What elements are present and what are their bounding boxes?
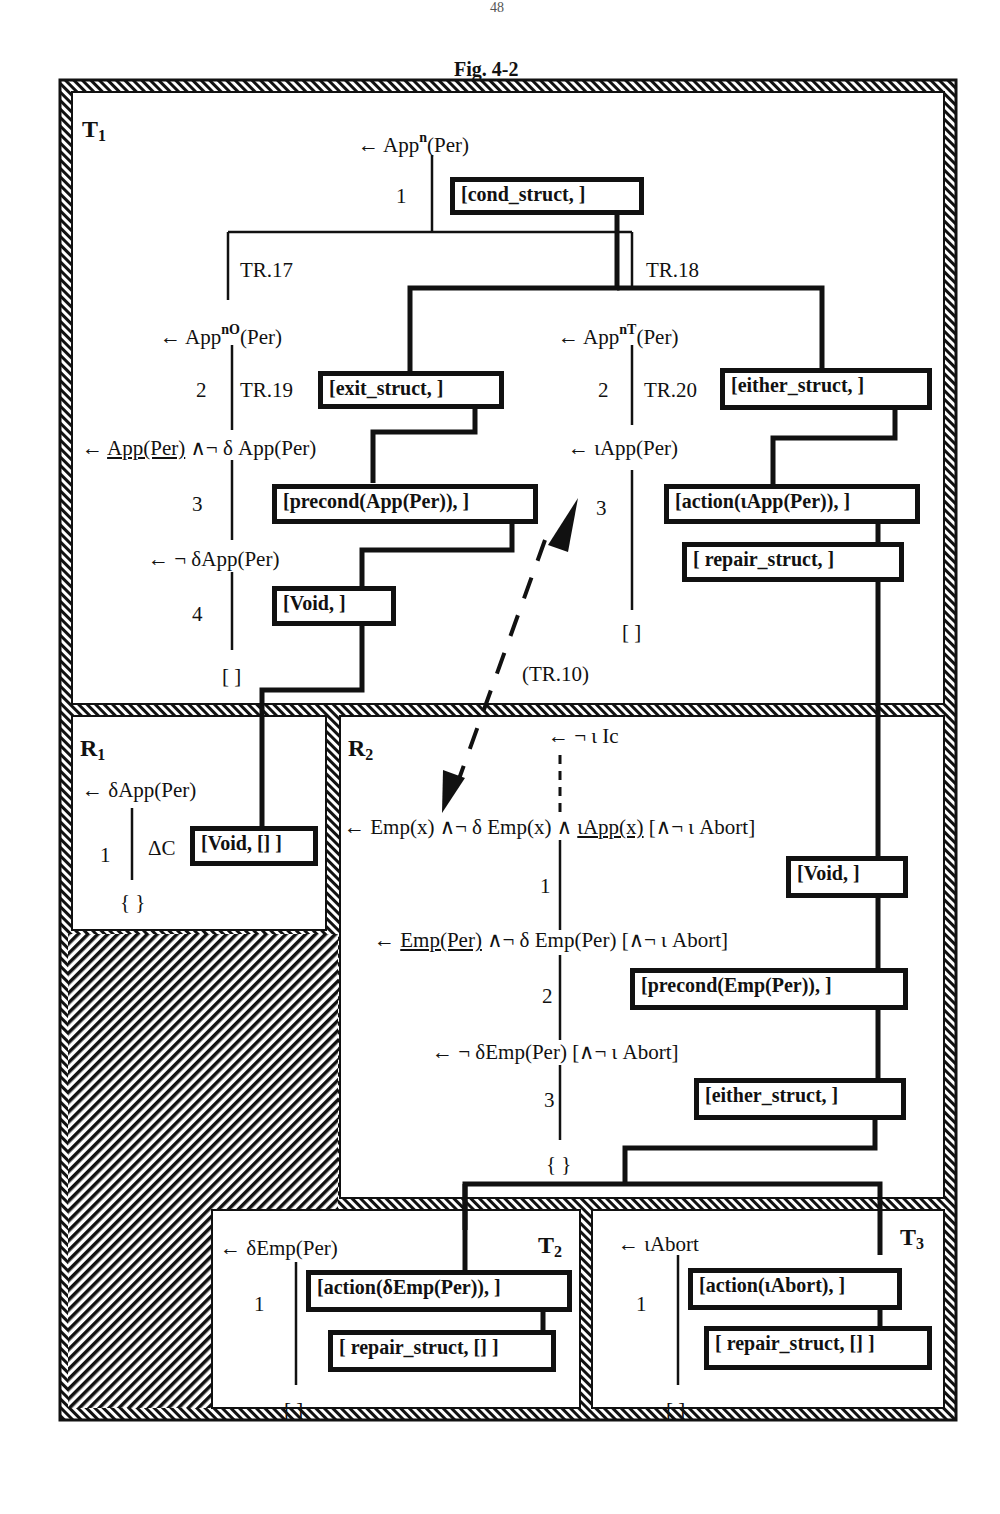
tr10-label: (TR.10) — [522, 662, 589, 686]
t3-step-1: 1 — [636, 1292, 647, 1316]
t1-left-end: [ ] — [222, 664, 241, 688]
figure-title: Fig. 4-2 — [454, 58, 518, 81]
r2-step-2: 2 — [542, 984, 553, 1008]
precond-app-box: [precond(App(Per)), ] — [272, 484, 538, 524]
void-box-r1: [Void, [] ] — [190, 826, 318, 866]
r2-goal-3: ← ¬ δEmp(Per) [∧¬ ι Abort] — [432, 1040, 678, 1064]
region-label-r1: R1 — [80, 735, 105, 768]
r2-end: { } — [546, 1152, 571, 1176]
t3-end: [ ] — [666, 1398, 685, 1422]
t2-step-1: 1 — [254, 1292, 265, 1316]
t1-left-step-2: 2 — [196, 378, 207, 402]
r1-goal: ← δApp(Per) — [82, 778, 196, 802]
either-struct-box-t1: [either_struct, ] — [720, 368, 932, 410]
r1-end: { } — [120, 890, 145, 914]
void-box-t1: [Void, ] — [272, 586, 396, 626]
t1-right-step-2: 2 — [598, 378, 609, 402]
r2-step-3: 3 — [544, 1088, 555, 1112]
tr19-label: TR.19 — [240, 378, 293, 402]
t3-goal: ← ιAbort — [618, 1232, 699, 1256]
r2-goal-1: ← Emp(x) ∧¬ δ Emp(x) ∧ ιApp(x) [∧¬ ι Abo… — [344, 815, 755, 839]
action-iapp-box: [action(ιApp(Per)), ] — [664, 484, 920, 524]
page-number: 48 — [490, 0, 504, 16]
t1-right-step-3: 3 — [596, 496, 607, 520]
t1-left-goal-3: ← ¬ δApp(Per) — [148, 547, 279, 571]
r2-top-goal: ← ¬ ι Ic — [548, 724, 619, 748]
tr20-label: TR.20 — [644, 378, 697, 402]
t1-step-1: 1 — [396, 184, 407, 208]
action-demp-box: [action(δEmp(Per)), ] — [306, 1270, 572, 1312]
action-iabort-box: [action(ιAbort), ] — [688, 1268, 902, 1310]
t1-left-step-4: 4 — [192, 602, 203, 626]
r1-delta-c: ΔC — [148, 836, 176, 860]
exit-struct-box: [exit_struct, ] — [318, 371, 504, 409]
region-label-r2: R2 — [348, 735, 373, 768]
t1-left-goal-2: ← App(Per) ∧¬ δ App(Per) — [82, 436, 316, 460]
r2-step-1: 1 — [540, 874, 551, 898]
t1-left-goal: ← AppnO(Per) — [160, 318, 282, 349]
repair-struct-box-t3: [ repair_struct, [] ] — [704, 1326, 932, 1370]
precond-emp-box: [precond(Emp(Per)), ] — [630, 968, 908, 1010]
region-label-t3: T3 — [900, 1224, 924, 1257]
tr17-label: TR.17 — [240, 258, 293, 282]
repair-struct-box-t2: [ repair_struct, [] ] — [328, 1330, 556, 1372]
r2-goal-2: ← Emp(Per) ∧¬ δ Emp(Per) [∧¬ ι Abort] — [374, 928, 728, 952]
region-label-t2: T2 — [538, 1232, 562, 1265]
t1-left-step-3: 3 — [192, 492, 203, 516]
r1-step-1: 1 — [100, 843, 111, 867]
region-label-t1: T1 — [82, 116, 106, 149]
t2-end: [ ] — [284, 1398, 303, 1422]
void-box-r2: [Void, ] — [786, 856, 908, 898]
repair-struct-box-t1: [ repair_struct, ] — [682, 542, 904, 582]
either-struct-box-r2: [either_struct, ] — [694, 1078, 906, 1120]
tr18-label: TR.18 — [646, 258, 699, 282]
t1-right-goal-2: ← ιApp(Per) — [568, 436, 678, 460]
t2-goal: ← δEmp(Per) — [220, 1236, 338, 1260]
cond-struct-box: [cond_struct, ] — [450, 177, 644, 215]
t1-right-goal: ← AppnT(Per) — [558, 318, 678, 349]
t1-right-end: [ ] — [622, 620, 641, 644]
t1-root-goal: ← Appn(Per) — [358, 126, 469, 157]
